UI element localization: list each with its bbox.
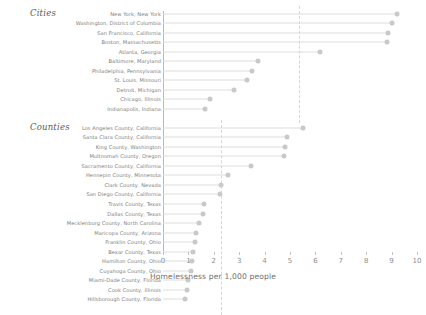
- lollipop-stem: [163, 289, 187, 290]
- x-tick-label: 5: [288, 257, 292, 265]
- lollipop-stem: [163, 13, 397, 14]
- lollipop-stem: [163, 99, 210, 100]
- lollipop-stem: [163, 175, 228, 176]
- category-label: Atlanta, Georgia: [119, 49, 161, 55]
- data-point[interactable]: [384, 40, 389, 45]
- data-point[interactable]: [194, 230, 199, 235]
- section-heading-cities: Cities: [30, 8, 56, 18]
- x-tick-label: 6: [313, 257, 317, 265]
- data-point[interactable]: [394, 11, 399, 16]
- lollipop-stem: [163, 61, 258, 62]
- data-point[interactable]: [200, 211, 205, 216]
- x-tick-mark: [315, 252, 316, 255]
- category-label: Santa Clara County, California: [83, 134, 161, 140]
- reference-line-cities: [299, 6, 300, 124]
- category-label: King County, Washington: [96, 144, 161, 150]
- data-point[interactable]: [201, 201, 206, 206]
- category-label: St. Louis, Missouri: [114, 77, 161, 83]
- x-axis-title: Homelessness per 1,000 people: [0, 272, 426, 281]
- data-point[interactable]: [281, 154, 286, 159]
- data-point[interactable]: [191, 249, 196, 254]
- lollipop-stem: [163, 51, 320, 52]
- x-tick-label: 2: [212, 257, 216, 265]
- data-point[interactable]: [282, 144, 287, 149]
- category-label: Washington, District of Columbia: [76, 20, 161, 26]
- data-point[interactable]: [225, 173, 230, 178]
- x-tick-label: 3: [237, 257, 241, 265]
- y-axis-spine: [163, 11, 164, 254]
- x-tick-label: 10: [413, 257, 422, 265]
- category-label: Detroit, Michigan: [117, 87, 162, 93]
- data-point[interactable]: [389, 21, 394, 26]
- lollipop-stem: [163, 194, 220, 195]
- category-label: Boston, Massachusetts: [101, 39, 161, 45]
- x-tick-mark: [265, 252, 266, 255]
- x-tick-mark: [188, 252, 189, 255]
- category-label: Travis County, Texas: [108, 201, 161, 207]
- x-tick-mark: [341, 252, 342, 255]
- x-tick-mark: [239, 252, 240, 255]
- category-label: Hillsborough County, Florida: [87, 296, 161, 302]
- category-label: Hamilton County, Ohio: [102, 258, 161, 264]
- reference-line-counties: [221, 120, 222, 315]
- lollipop-stem: [163, 137, 287, 138]
- lollipop-stem: [163, 184, 221, 185]
- data-point[interactable]: [182, 297, 187, 302]
- category-label: Multnomah County, Oregon: [89, 153, 161, 159]
- x-tick-mark: [290, 252, 291, 255]
- data-point[interactable]: [185, 287, 190, 292]
- data-point[interactable]: [192, 240, 197, 245]
- x-tick-label: 8: [364, 257, 368, 265]
- lollipop-stem: [163, 203, 204, 204]
- lollipop-stem: [163, 23, 392, 24]
- plot-area: [163, 0, 426, 298]
- x-tick-label: 4: [262, 257, 266, 265]
- x-tick-label: 0: [161, 257, 165, 265]
- category-label: San Diego County, California: [86, 191, 161, 197]
- data-point[interactable]: [249, 68, 254, 73]
- lollipop-stem: [163, 109, 205, 110]
- lollipop-stem: [163, 223, 199, 224]
- x-tick-label: 9: [389, 257, 393, 265]
- lollipop-stem: [163, 242, 195, 243]
- x-tick-mark: [366, 252, 367, 255]
- category-label: Clark County, Nevada: [104, 182, 161, 188]
- lollipop-stem: [163, 146, 285, 147]
- category-label: New York, New York: [110, 11, 161, 17]
- data-point[interactable]: [244, 78, 249, 83]
- lollipop-stem: [163, 32, 388, 33]
- category-label: Chicago, Illinois: [120, 96, 161, 102]
- data-point[interactable]: [285, 135, 290, 140]
- lollipop-stem: [163, 165, 251, 166]
- data-point[interactable]: [300, 125, 305, 130]
- data-point[interactable]: [256, 59, 261, 64]
- x-tick-label: 1: [186, 257, 190, 265]
- category-label: Philadelphia, Pennsylvania: [92, 68, 161, 74]
- data-point[interactable]: [232, 87, 237, 92]
- lollipop-stem: [163, 70, 252, 71]
- category-label: Los Angeles County, California: [82, 125, 161, 131]
- lollipop-stem: [163, 232, 196, 233]
- lollipop-stem: [163, 80, 247, 81]
- category-label: Franklin County, Ohio: [105, 239, 161, 245]
- category-label: Cook County, Illinois: [108, 287, 161, 293]
- data-point[interactable]: [196, 221, 201, 226]
- data-point[interactable]: [385, 30, 390, 35]
- x-tick-mark: [417, 252, 418, 255]
- data-point[interactable]: [207, 97, 212, 102]
- category-label: Mecklenburg County, North Carolina: [67, 220, 161, 226]
- data-point[interactable]: [248, 163, 253, 168]
- category-label: Hennepin County, Minnesota: [86, 172, 161, 178]
- category-labels-column: New York, New YorkWashington, District o…: [0, 0, 161, 298]
- lollipop-stem: [163, 127, 303, 128]
- category-label: Maricopa County, Arizona: [94, 230, 161, 236]
- lollipop-stem: [163, 213, 203, 214]
- section-heading-counties: Counties: [30, 122, 70, 132]
- lollipop-stem: [163, 42, 387, 43]
- x-tick-mark: [392, 252, 393, 255]
- category-label: Indianapolis, Indiana: [107, 106, 161, 112]
- data-point[interactable]: [318, 49, 323, 54]
- x-tick-mark: [214, 252, 215, 255]
- data-point[interactable]: [202, 107, 207, 112]
- lollipop-stem: [163, 156, 284, 157]
